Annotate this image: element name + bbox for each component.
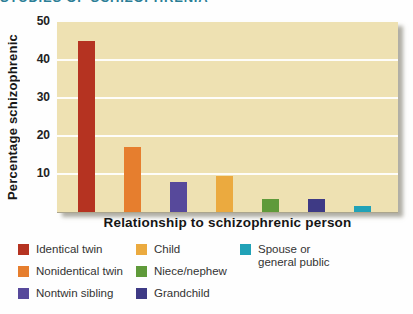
bar-chart-plot-area (57, 22, 398, 213)
gridline-10 (57, 173, 398, 175)
legend-column-2: ChildNiece/nephewGrandchild (136, 244, 227, 310)
y-axis-ticks: 1020304050 (24, 22, 52, 212)
legend-swatch-spouse-or-general-public (240, 244, 251, 255)
gridline-20 (57, 135, 398, 137)
y-tick-label-20: 20 (22, 127, 50, 143)
clipped-page-heading: STUDIES OF SCHIZOPHRENIA (0, 0, 413, 5)
legend-swatch-child (136, 244, 147, 255)
y-tick-label-30: 30 (22, 89, 50, 105)
legend-swatch-grandchild (136, 288, 147, 299)
gridline-40 (57, 59, 398, 61)
legend-item-child: Child (136, 244, 227, 255)
figure-page: STUDIES OF SCHIZOPHRENIA Percentage schi… (0, 0, 413, 314)
legend-label: Grandchild (154, 287, 210, 300)
legend-item-niece-nephew: Niece/nephew (136, 266, 227, 277)
legend-swatch-identical-twin (18, 244, 29, 255)
legend-label: Nontwin sibling (36, 287, 113, 300)
legend-item-identical-twin: Identical twin (18, 244, 123, 255)
legend-swatch-niece-nephew (136, 266, 147, 277)
legend-label: Niece/nephew (154, 265, 227, 278)
bar-identical-twin (78, 41, 95, 212)
bar-nonidentical-twin (124, 147, 141, 212)
bar-niece-nephew (262, 199, 279, 212)
legend-column-1: Identical twinNonidentical twinNontwin s… (18, 244, 123, 310)
legend-item-grandchild: Grandchild (136, 288, 227, 299)
bar-nontwin-sibling (170, 182, 187, 212)
legend-item-nontwin-sibling: Nontwin sibling (18, 288, 123, 299)
legend-swatch-nontwin-sibling (18, 288, 29, 299)
y-tick-label-50: 50 (22, 13, 50, 29)
y-tick-label-40: 40 (22, 51, 50, 67)
chart-legend: Identical twinNonidentical twinNontwin s… (18, 244, 398, 304)
y-tick-label-10: 10 (22, 165, 50, 181)
legend-label: Spouse orgeneral public (258, 243, 330, 269)
legend-label: Child (154, 243, 180, 256)
bar-spouse-or-general-public (354, 206, 371, 212)
legend-item-spouse-or-general-public: Spouse orgeneral public (240, 244, 330, 255)
legend-label: Nonidentical twin (36, 265, 123, 278)
page-heading-text: STUDIES OF SCHIZOPHRENIA (0, 0, 413, 5)
bar-child (216, 176, 233, 212)
legend-label: Identical twin (36, 243, 102, 256)
bar-grandchild (308, 199, 325, 212)
legend-item-nonidentical-twin: Nonidentical twin (18, 266, 123, 277)
x-axis-title: Relationship to schizophrenic person (57, 215, 398, 230)
legend-swatch-nonidentical-twin (18, 266, 29, 277)
legend-column-3: Spouse orgeneral public (240, 244, 330, 266)
y-axis-title: Percentage schizophrenic (3, 22, 21, 212)
gridline-30 (57, 97, 398, 99)
